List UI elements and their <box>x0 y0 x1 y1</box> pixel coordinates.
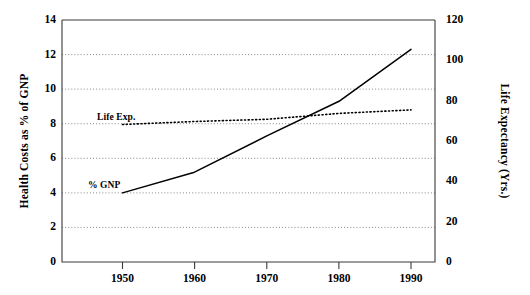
x-tick-marks <box>123 262 412 269</box>
plot-area <box>0 0 530 295</box>
series-line-gnp <box>123 49 412 193</box>
plot-frame <box>62 20 435 262</box>
gridlines <box>62 55 435 228</box>
y-tick-left-6: 6 <box>22 151 56 163</box>
y-tick-left-8: 8 <box>22 117 56 129</box>
y-tick-left-2: 2 <box>22 220 56 232</box>
x-tick-1970: 1970 <box>244 272 290 284</box>
series-line-life-exp <box>123 110 412 125</box>
chart-figure: Health Costs as % of GNP Life Expectancy… <box>0 0 530 295</box>
y-tick-right-100: 100 <box>446 53 480 65</box>
y-tick-left-14: 14 <box>22 13 56 25</box>
y-tick-right-40: 40 <box>446 174 480 186</box>
y-tick-left-4: 4 <box>22 186 56 198</box>
x-tick-1950: 1950 <box>100 272 146 284</box>
y-tick-right-120: 120 <box>446 13 480 25</box>
y-tick-right-60: 60 <box>446 134 480 146</box>
y-tick-left-0: 0 <box>22 255 56 267</box>
x-tick-1960: 1960 <box>172 272 218 284</box>
y-tick-left-10: 10 <box>22 82 56 94</box>
x-tick-1990: 1990 <box>388 272 434 284</box>
series-label-life-exp: Life Exp. <box>97 112 135 122</box>
x-tick-1980: 1980 <box>316 272 362 284</box>
y-tick-right-0: 0 <box>446 255 480 267</box>
y-tick-right-80: 80 <box>446 94 480 106</box>
y-tick-left-12: 12 <box>22 48 56 60</box>
series-label-gnp: % GNP <box>88 180 120 190</box>
y-tick-right-20: 20 <box>446 215 480 227</box>
